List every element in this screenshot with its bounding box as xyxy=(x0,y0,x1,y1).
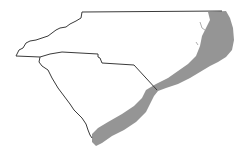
map-container xyxy=(0,0,244,158)
shaded-coastal-band xyxy=(92,11,234,146)
south-carolina-outline xyxy=(39,52,157,138)
north-carolina-outline xyxy=(16,11,222,57)
carolinas-map xyxy=(0,0,244,158)
